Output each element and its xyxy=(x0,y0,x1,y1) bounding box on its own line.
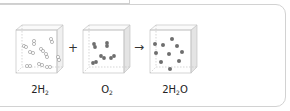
reaction-arrow: → xyxy=(134,40,144,54)
water-label: 2H2O xyxy=(145,84,205,96)
oxygen-box xyxy=(83,25,130,73)
water-molecules xyxy=(153,37,184,71)
plus-operator: + xyxy=(68,41,78,55)
hydrogen-label: 2H2 xyxy=(10,84,70,96)
oxygen-label: O2 xyxy=(77,84,137,96)
oxygen-molecules xyxy=(91,41,116,65)
water-box xyxy=(150,25,197,73)
hydrogen-molecules xyxy=(22,37,60,68)
